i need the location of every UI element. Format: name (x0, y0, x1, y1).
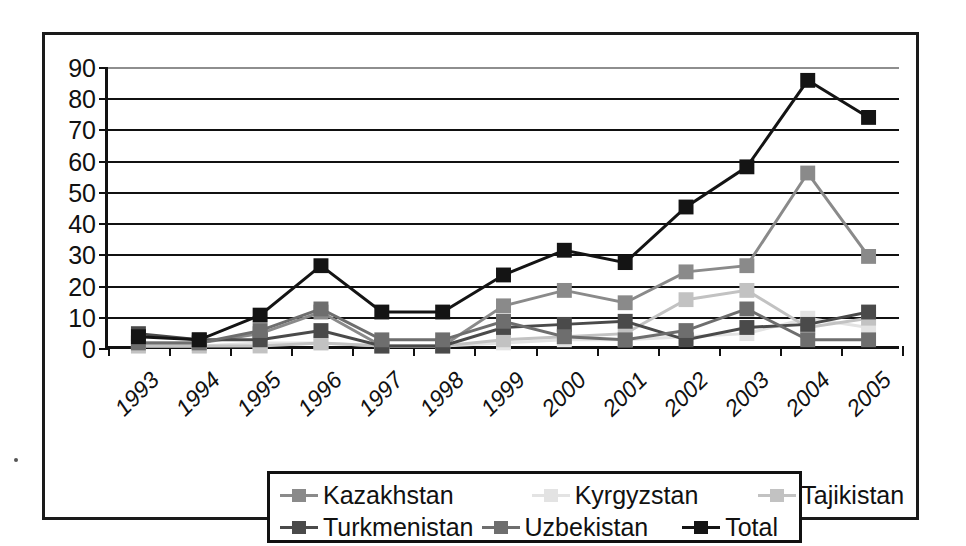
data-point-marker (557, 243, 572, 258)
data-point-marker (861, 332, 876, 347)
data-point-marker (679, 200, 694, 215)
y-axis-tick (99, 348, 108, 350)
data-point-marker (800, 317, 815, 332)
x-axis-tick (658, 346, 660, 356)
x-axis-tick (841, 346, 843, 356)
data-point-marker (496, 314, 511, 329)
legend-row: KazakhstanKyrgyzstanTajikistan (280, 479, 789, 511)
data-point-marker (313, 302, 328, 317)
x-axis-tick-label: 1994 (171, 368, 223, 420)
data-point-marker (496, 298, 511, 313)
x-axis-tick (597, 346, 599, 356)
legend-item-label: Uzbekistan (525, 515, 649, 540)
legend-item-label: Kyrgyzstan (575, 483, 699, 508)
y-axis-tick-label: 20 (68, 274, 96, 299)
y-axis-tick (99, 254, 108, 256)
legend-item-uzbekistan[interactable]: Uzbekistan (482, 515, 649, 540)
legend-swatch-icon (532, 487, 570, 503)
legend-swatch-icon (482, 519, 520, 535)
series-layer (108, 68, 899, 346)
data-point-marker (800, 73, 815, 88)
y-axis-tick-label: 30 (68, 243, 96, 268)
x-axis-tick (536, 346, 538, 356)
data-point-marker (253, 308, 268, 323)
x-axis-tick (413, 346, 415, 356)
data-point-marker (435, 332, 450, 347)
y-axis-tick-label: 50 (68, 180, 96, 205)
data-point-marker (800, 166, 815, 181)
y-axis-tick-label: 0 (82, 337, 96, 362)
legend-row: TurkmenistanUzbekistanTotal (280, 511, 789, 543)
y-axis-tick (99, 161, 108, 163)
data-point-marker (679, 323, 694, 338)
y-axis-tick (99, 286, 108, 288)
x-axis-tick-label: 2001 (599, 368, 651, 420)
data-point-marker (800, 332, 815, 347)
data-point-marker (557, 283, 572, 298)
legend-item-label: Total (725, 515, 778, 540)
y-axis-tick-label: 10 (68, 305, 96, 330)
legend-item-label: Turkmenistan (323, 515, 474, 540)
x-axis-tick (780, 346, 782, 356)
x-axis-tick-label: 1999 (477, 368, 529, 420)
data-point-marker (861, 249, 876, 264)
data-point-marker (618, 332, 633, 347)
x-axis-tick (169, 346, 171, 356)
x-axis-tick (474, 346, 476, 356)
y-axis-tick-label: 90 (68, 56, 96, 81)
data-point-marker (131, 329, 146, 344)
legend-swatch-icon (758, 487, 796, 503)
data-point-marker (496, 268, 511, 283)
x-axis-tick (230, 346, 232, 356)
legend-item-total[interactable]: Total (682, 515, 778, 540)
legend-item-turkmenistan[interactable]: Turkmenistan (280, 515, 474, 540)
data-point-marker (374, 305, 389, 320)
data-point-marker (618, 314, 633, 329)
data-point-marker (679, 292, 694, 307)
x-axis-tick (902, 346, 904, 356)
legend-item-tajikistan[interactable]: Tajikistan (758, 483, 904, 508)
x-axis-tick-label: 2003 (721, 368, 773, 420)
x-axis-tick-label: 2002 (660, 368, 712, 420)
x-axis-tick-label: 1998 (416, 368, 468, 420)
data-point-marker (618, 255, 633, 270)
y-axis-tick (99, 317, 108, 319)
data-point-marker (557, 329, 572, 344)
data-point-marker (192, 332, 207, 347)
x-axis-tick-label: 2004 (782, 368, 834, 420)
legend-item-label: Kazakhstan (323, 483, 454, 508)
x-axis-tick (719, 346, 721, 356)
y-axis-tick (99, 67, 108, 69)
data-point-marker (253, 323, 268, 338)
x-axis-tick-label: 1995 (233, 368, 285, 420)
y-axis-tick (99, 192, 108, 194)
data-point-marker (679, 264, 694, 279)
x-axis-tick-label: 1993 (110, 368, 162, 420)
data-point-marker (739, 258, 754, 273)
x-axis-tick-label: 2005 (843, 368, 895, 420)
chart-legend: KazakhstanKyrgyzstanTajikistan Turkmenis… (267, 471, 802, 543)
x-axis-tick (108, 346, 110, 356)
plot-area: 0102030405060708090 19931994199519961997… (105, 68, 899, 349)
legend-swatch-icon (682, 519, 720, 535)
x-axis-tick-label: 1996 (294, 368, 346, 420)
x-axis-tick-label: 1997 (355, 368, 407, 420)
y-axis-tick (99, 98, 108, 100)
legend-item-label: Tajikistan (801, 483, 904, 508)
data-point-marker (739, 302, 754, 317)
y-axis-tick-label: 70 (68, 118, 96, 143)
legend-swatch-icon (280, 487, 318, 503)
y-axis-tick (99, 129, 108, 131)
data-point-marker (313, 258, 328, 273)
data-point-marker (739, 159, 754, 174)
data-point-marker (374, 332, 389, 347)
scan-artifact-speck (14, 458, 18, 462)
legend-item-kyrgyzstan[interactable]: Kyrgyzstan (532, 483, 699, 508)
data-point-marker (739, 283, 754, 298)
data-point-marker (618, 295, 633, 310)
chart-page-frame: 0102030405060708090 19931994199519961997… (42, 32, 919, 520)
data-point-marker (435, 305, 450, 320)
legend-item-kazakhstan[interactable]: Kazakhstan (280, 483, 454, 508)
data-point-marker (861, 305, 876, 320)
data-point-marker (739, 320, 754, 335)
